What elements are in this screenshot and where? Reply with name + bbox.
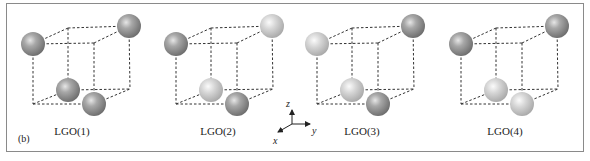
configuration-label: LGO(3): [344, 125, 380, 138]
atom-sphere-top-right-back-light: [260, 14, 284, 38]
y-axis-label: y: [311, 125, 317, 136]
atom-sphere-top-left-front-dark: [164, 32, 188, 56]
atom-sphere-bottom-left-back-light: [199, 78, 223, 102]
atom-sphere-top-left-front-dark: [449, 32, 473, 56]
atom-sphere-bottom-right-front-dark: [82, 92, 106, 116]
coordinate-axes: z y x: [272, 98, 317, 146]
atom-sphere-bottom-left-back-light: [340, 78, 364, 102]
atom-sphere-top-right-back-dark: [117, 14, 141, 38]
atom-sphere-bottom-right-front-dark: [366, 92, 390, 116]
configuration-label: LGO(1): [54, 125, 90, 138]
configuration-label: LGO(2): [200, 125, 236, 138]
atom-sphere-top-left-front-dark: [21, 32, 45, 56]
atom-sphere-bottom-right-front-light: [510, 92, 534, 116]
configuration-label: LGO(4): [487, 125, 523, 138]
atom-sphere-top-right-back-dark: [545, 14, 569, 38]
atom-sphere-top-left-front-light: [305, 32, 329, 56]
lgo-cube-2: LGO(2): [164, 14, 284, 138]
panel-label: (b): [18, 133, 30, 145]
atom-sphere-bottom-left-back-light: [484, 78, 508, 102]
atom-sphere-bottom-left-back-dark: [56, 78, 80, 102]
z-axis-label: z: [285, 98, 290, 109]
atom-sphere-bottom-right-front-dark: [225, 92, 249, 116]
lgo-cube-4: LGO(4): [449, 14, 569, 138]
x-axis-arrow: [278, 124, 292, 132]
lgo-configurations-figure: LGO(1)LGO(2)LGO(3)LGO(4) z y x (b): [0, 0, 590, 161]
lgo-cube-3: LGO(3): [305, 14, 425, 138]
x-axis-label: x: [272, 135, 278, 146]
lgo-cube-1: LGO(1): [21, 14, 141, 138]
atom-sphere-top-right-back-dark: [401, 14, 425, 38]
